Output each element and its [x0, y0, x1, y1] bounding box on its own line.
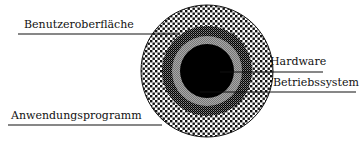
label-benutzeroberflaeche: Benutzeroberfläche: [24, 19, 134, 31]
label-hardware: Hardware: [270, 56, 326, 68]
label-betriebssystem: Betriebssystem: [273, 77, 359, 89]
hardware-core: [180, 44, 234, 98]
label-anwendungsprogramm: Anwendungsprogramm: [11, 110, 142, 122]
